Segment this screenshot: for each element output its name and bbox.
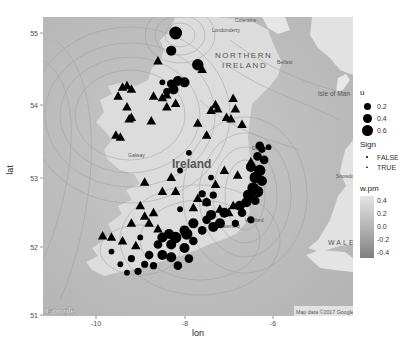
colorbar-tick: 0.4 xyxy=(377,197,387,204)
x-axis-title: lon xyxy=(192,328,204,338)
size-dot-icon xyxy=(364,103,371,110)
map-label-snowdonia: Snowdonia xyxy=(336,173,361,179)
circle-marker xyxy=(247,216,254,223)
y-axis-title: lat xyxy=(5,165,15,175)
circle-marker xyxy=(186,150,192,156)
circle-marker xyxy=(188,218,198,228)
circle-marker xyxy=(109,249,115,255)
colorbar-tick: -0.2 xyxy=(377,236,389,243)
circle-marker xyxy=(169,27,182,40)
circle-marker xyxy=(202,198,211,207)
legend-size-entry: 0.6 xyxy=(360,124,387,137)
legend-sign-label: TRUE xyxy=(377,164,396,171)
circle-marker xyxy=(157,250,167,260)
circle-marker xyxy=(198,226,207,235)
circle-marker xyxy=(199,190,206,197)
circle-marker xyxy=(166,46,176,56)
circle-marker xyxy=(150,262,157,269)
circle-marker xyxy=(257,176,267,186)
legend-fill: w.pm 0.4 0.2 0.0 -0.2 -0.4 xyxy=(360,184,407,258)
circle-marker xyxy=(219,208,229,218)
circle-marker xyxy=(185,254,194,263)
legend-size-label: 0.6 xyxy=(377,127,387,134)
circle-marker xyxy=(232,220,239,227)
circle-marker xyxy=(192,59,203,70)
circle-marker xyxy=(177,206,183,212)
y-tick-label: 52 xyxy=(30,244,38,251)
circle-marker xyxy=(189,237,198,246)
circle-marker xyxy=(174,261,183,270)
colorbar-tick: 0.2 xyxy=(377,210,387,217)
circle-marker-icon xyxy=(366,156,369,159)
triangle-marker-icon xyxy=(366,166,368,168)
map-label-northern: NORTHERN xyxy=(215,51,272,60)
circle-marker xyxy=(258,146,265,153)
legend-size-entry: 0.2 xyxy=(360,100,387,112)
circle-marker xyxy=(117,261,123,267)
circle-marker xyxy=(266,144,272,150)
circle-marker xyxy=(145,251,154,260)
map-label-ireland-ni: IRELAND xyxy=(222,61,267,70)
colorbar-tick: -0.4 xyxy=(377,249,389,256)
circle-marker xyxy=(202,216,211,225)
y-tick-label: 55 xyxy=(30,30,38,37)
map-attribution: Map data ©2017 Google xyxy=(296,309,354,315)
y-tick-label: 51 xyxy=(30,312,38,319)
y-axis: 5554535251 xyxy=(30,30,43,319)
colorbar xyxy=(360,196,374,258)
circle-marker xyxy=(238,208,247,217)
size-dot-icon xyxy=(363,114,372,123)
x-tick-label: -6 xyxy=(270,320,276,327)
circle-marker xyxy=(134,268,141,275)
circle-marker xyxy=(180,243,190,253)
circle-marker xyxy=(124,270,130,276)
legend-fill-title: w.pm xyxy=(360,184,407,193)
circle-marker xyxy=(166,240,176,250)
legend-size-label: 0.2 xyxy=(377,103,387,110)
circle-marker xyxy=(163,88,170,95)
map-label-wales: WALES xyxy=(328,239,362,246)
circle-marker xyxy=(177,168,183,174)
map-label-isle-of-man: Isle of Man xyxy=(318,90,350,97)
circle-marker xyxy=(166,252,176,262)
google-logo: Google xyxy=(46,306,76,316)
map-label-galway: Galway xyxy=(128,152,145,158)
y-tick-label: 53 xyxy=(30,175,38,182)
circle-marker xyxy=(154,240,163,249)
circle-marker xyxy=(251,196,260,205)
x-axis: -10-8-6 xyxy=(91,316,276,327)
colorbar-tick: 0.0 xyxy=(377,223,387,230)
circle-marker xyxy=(210,192,217,199)
circle-marker xyxy=(159,79,165,85)
x-tick-label: -10 xyxy=(91,320,101,327)
size-dot-icon xyxy=(362,125,373,136)
legend-sign: Sign FALSE TRUE xyxy=(360,140,399,172)
legend-size-entry: 0.4 xyxy=(360,112,387,124)
legend-sign-entry: FALSE xyxy=(360,152,399,162)
legend-sign-entry: TRUE xyxy=(360,162,399,172)
legend-size: u 0.2 0.4 0.6 xyxy=(360,88,387,137)
circle-marker xyxy=(141,261,148,268)
circle-marker xyxy=(260,156,269,165)
map-label-belfast: Belfast xyxy=(277,59,293,65)
legend-size-title: u xyxy=(360,88,387,97)
circle-marker xyxy=(137,235,143,241)
map-plot: NORTHERN IRELAND Ireland Isle of Man WAL… xyxy=(0,0,420,351)
map-label-londonderry: Londonderry xyxy=(212,27,241,33)
circle-marker xyxy=(208,175,214,181)
circle-marker xyxy=(128,255,135,262)
circle-marker xyxy=(208,222,218,232)
map-label-coleraine: Coleraine xyxy=(235,17,257,23)
legend-sign-title: Sign xyxy=(360,140,399,149)
x-tick-label: -8 xyxy=(182,320,188,327)
y-tick-label: 54 xyxy=(30,102,38,109)
legend-size-label: 0.4 xyxy=(377,115,387,122)
legend-sign-label: FALSE xyxy=(377,154,399,161)
